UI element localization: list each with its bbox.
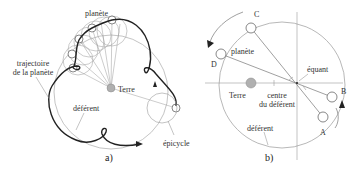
label-center-line1: centre [254, 91, 300, 100]
diagram-b [205, 12, 345, 160]
equant-point [296, 82, 298, 84]
earth-b [246, 78, 256, 88]
label-deferent-a: déférent [73, 104, 99, 113]
label-equant: équant [307, 65, 328, 74]
label-epicycle: épicycle [163, 139, 190, 148]
label-deferent-b: déférent [247, 124, 273, 133]
label-planet-b: planète [231, 47, 254, 56]
trajectory-arrow-icon [136, 141, 143, 147]
label-center-line2: du déférent [250, 100, 304, 109]
rotation-arc-top [210, 12, 243, 42]
earth-a [107, 84, 115, 92]
label-trajectory-line2: de la planète [4, 68, 62, 77]
caption-b: b) [265, 153, 273, 162]
rotation-arrow-right-icon [339, 100, 345, 108]
planet-positions-a [68, 16, 180, 112]
label-earth-a: Terre [118, 85, 135, 94]
epicycle-arrow-icon [153, 81, 157, 87]
label-point-d: D [211, 60, 217, 69]
label-trajectory-line1: trajectoire [8, 59, 58, 68]
planet-trajectory [49, 19, 177, 145]
caption-a: a) [105, 153, 113, 162]
label-planet-a: planète [85, 9, 108, 18]
label-point-a: A [320, 128, 326, 137]
label-point-b: B [341, 87, 346, 96]
label-point-c: C [254, 10, 259, 19]
diagram-canvas [0, 0, 363, 176]
label-earth-b: Terre [229, 91, 246, 100]
deferent-circle-b [219, 22, 345, 148]
diagram-a [36, 16, 180, 149]
leader-lines-b [264, 74, 308, 145]
